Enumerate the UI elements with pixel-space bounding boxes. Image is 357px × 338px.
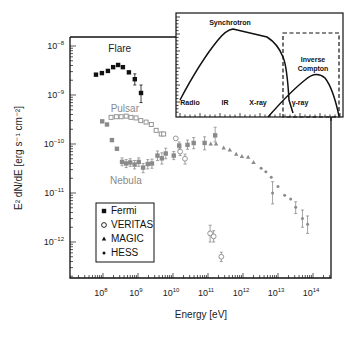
series-hess (260, 167, 309, 234)
x-tick-label: 108 (94, 287, 108, 298)
data-point (202, 141, 206, 145)
data-point (271, 192, 274, 195)
data-point (251, 160, 255, 164)
data-point (277, 185, 280, 188)
data-point (177, 143, 181, 147)
data-point (124, 114, 128, 118)
data-point (164, 151, 168, 155)
data-point (139, 119, 143, 123)
data-point (173, 136, 178, 141)
series-veritas (173, 136, 223, 261)
annotation-flare: Flare (108, 43, 131, 54)
data-point (132, 162, 136, 166)
data-point (100, 71, 104, 75)
x-tick-label: 1012 (233, 287, 250, 298)
data-point (178, 149, 183, 154)
data-point (260, 167, 263, 170)
data-point (289, 198, 292, 201)
data-point (110, 138, 114, 142)
x-axis-title: Energy [eV] (175, 309, 227, 320)
data-point (105, 122, 109, 126)
data-point (234, 152, 238, 156)
inset-label-synchrotron: Synchrotron (209, 19, 251, 27)
data-point (139, 91, 143, 95)
annotation-nebula: Nebula (110, 175, 142, 186)
data-point (155, 153, 159, 157)
data-point (127, 70, 131, 74)
data-point (128, 160, 132, 164)
data-point (185, 143, 189, 147)
data-point (301, 217, 304, 220)
legend-marker-hess (103, 252, 106, 255)
y-tick-label: 10−12 (44, 236, 65, 247)
data-point (111, 65, 115, 69)
x-axis-ticks: 10810910101011101210131014 (79, 273, 330, 298)
data-point (120, 160, 124, 164)
data-point (211, 234, 216, 239)
data-point (115, 147, 119, 151)
data-point (109, 115, 113, 119)
inset-label-inverse: Inverse (301, 56, 326, 63)
legend-marker-fermi (102, 209, 106, 213)
data-point (144, 120, 148, 124)
data-point (221, 146, 225, 150)
legend-label-veritas: VERITAS (111, 219, 153, 230)
annotation-pulsar: Pulsar (111, 103, 140, 114)
data-point (240, 154, 244, 158)
inset-label-compton: Compton (298, 65, 329, 73)
x-tick-label: 1014 (303, 287, 320, 298)
series-fermi-nebula (100, 119, 217, 173)
inset-band-gamma: γ-ray (292, 99, 309, 107)
data-point (124, 161, 128, 165)
data-point (134, 116, 138, 120)
y-tick-label: 10−11 (44, 187, 64, 198)
y-tick-label: 10−10 (44, 138, 65, 149)
data-point (160, 156, 164, 160)
x-tick-label: 1013 (268, 287, 285, 298)
data-point (150, 161, 154, 165)
data-point (137, 160, 141, 164)
inset-band-ir: IR (222, 99, 229, 106)
inset-band-xray: X-ray (249, 99, 267, 107)
data-point (306, 223, 309, 226)
data-point (270, 176, 273, 179)
data-point (154, 128, 158, 132)
legend-label-fermi: Fermi (111, 205, 137, 216)
data-point (283, 194, 286, 197)
data-point (129, 115, 133, 119)
y-axis-title-text: E² dN/dE [erg s⁻¹ cm⁻²] (13, 106, 24, 210)
data-point (191, 141, 195, 145)
y-tick-label: 10−8 (47, 40, 65, 51)
data-point (228, 147, 232, 151)
y-tick-label: 10−9 (47, 89, 65, 100)
data-point (106, 69, 110, 73)
inset-sed-diagram: SynchrotronInverseComptonRadioIRX-rayγ-r… (176, 13, 343, 121)
y-axis-title: E² dN/dE [erg s⁻¹ cm⁻²] (13, 106, 24, 210)
data-point (209, 142, 213, 146)
legend-label-magic: MAGIC (111, 233, 144, 244)
data-point (246, 155, 250, 159)
data-point (133, 77, 137, 81)
series-magic (209, 142, 256, 164)
data-point (183, 156, 188, 161)
data-point (172, 153, 176, 157)
spectrum-chart: E² dN/dE [erg s⁻¹ cm⁻²] 1081091010101110… (0, 0, 357, 338)
data-point (100, 119, 104, 123)
data-point (114, 115, 118, 119)
data-point (121, 65, 125, 69)
series-fermi-flare (94, 63, 143, 103)
data-point (116, 63, 120, 67)
data-point (149, 123, 153, 127)
legend-marker-veritas (102, 223, 107, 228)
y-axis-ticks: 10−810−910−1010−1110−12 (44, 40, 76, 276)
data-point (141, 165, 145, 169)
legend: FermiVERITASMAGICHESS (96, 203, 154, 262)
data-point (213, 133, 217, 137)
x-tick-label: 109 (129, 287, 143, 298)
data-point (119, 115, 123, 119)
data-point (219, 254, 224, 259)
x-tick-label: 1011 (198, 287, 215, 298)
inset-band-radio: Radio (180, 99, 199, 106)
x-tick-label: 1010 (163, 287, 180, 298)
legend-label-hess: HESS (111, 247, 139, 258)
